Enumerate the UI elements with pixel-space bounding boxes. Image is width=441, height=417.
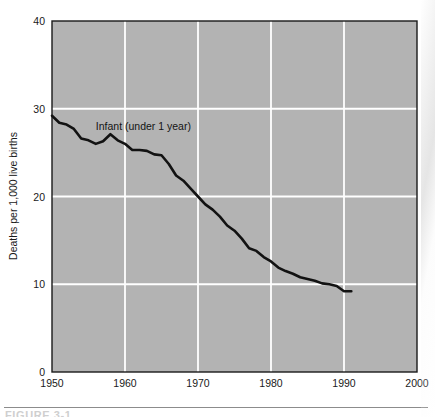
- y-tick-label: 40: [33, 15, 45, 27]
- x-tick-label: 1980: [259, 377, 283, 389]
- y-axis-title: Deaths per 1,000 live births: [7, 132, 19, 260]
- x-tick-label: 2000: [405, 377, 429, 389]
- x-tick-label: 1990: [332, 377, 356, 389]
- figure-caption-sliver: FIGURE 3-1: [5, 410, 125, 417]
- series-annotation-infant: Infant (under 1 year): [96, 120, 191, 132]
- y-tick-label: 10: [33, 278, 45, 290]
- y-tick-label: 0: [39, 366, 45, 378]
- infant-mortality-line-chart: 195019601970198019902000 010203040 Death…: [0, 0, 441, 417]
- x-tick-label: 1960: [113, 377, 137, 389]
- caption-divider-rule: [4, 407, 428, 408]
- x-axis-tick-labels: 195019601970198019902000: [40, 377, 429, 389]
- y-tick-label: 20: [33, 191, 45, 203]
- x-tick-label: 1950: [40, 377, 64, 389]
- y-tick-label: 30: [33, 103, 45, 115]
- x-tick-label: 1970: [186, 377, 210, 389]
- y-axis-tick-labels: 010203040: [33, 15, 45, 378]
- figure-root: 195019601970198019902000 010203040 Death…: [0, 0, 441, 417]
